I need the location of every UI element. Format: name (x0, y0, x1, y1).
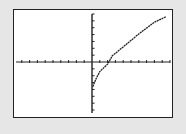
graph-plot (14, 10, 172, 117)
calculator-graph-screen (13, 9, 173, 118)
function-curve (93, 17, 166, 87)
